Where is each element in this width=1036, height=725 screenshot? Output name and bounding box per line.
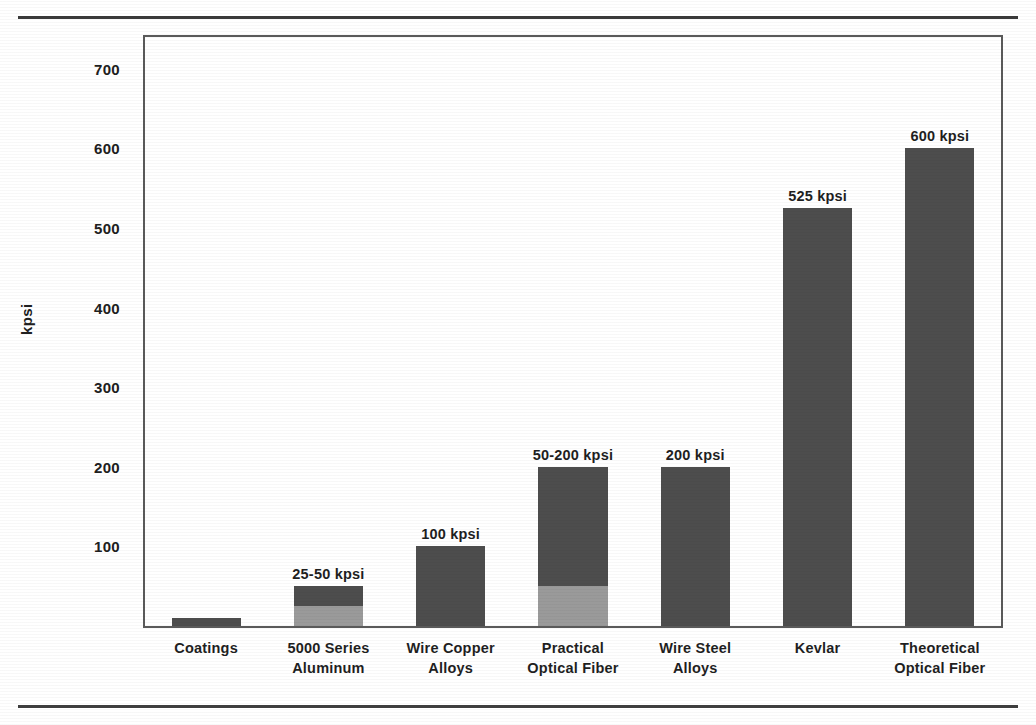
x-axis-label-line: Optical Fiber (512, 658, 634, 678)
x-axis-label-line: 5000 Series (267, 638, 389, 658)
top-horizontal-rule (18, 16, 1018, 19)
document-page: kpsi 700600500400300200100 25-50 kpsi100… (0, 0, 1036, 725)
bar[interactable] (172, 618, 241, 626)
bar[interactable] (783, 208, 852, 626)
x-axis-label-line: Alloys (390, 658, 512, 678)
x-axis-label-line: Kevlar (756, 638, 878, 658)
y-axis-tick-600: 600 (94, 140, 120, 157)
x-axis-label-line: Wire Steel (634, 638, 756, 658)
x-axis-label-kevlar: Kevlar (756, 638, 878, 658)
x-axis-label-line: Wire Copper (390, 638, 512, 658)
bar-value-label: 525 kpsi (788, 188, 847, 204)
y-axis-tick-300: 300 (94, 379, 120, 396)
bottom-horizontal-rule (18, 705, 1018, 708)
bar-lower-range-segment (294, 606, 363, 626)
x-axis-label-line: Practical (512, 638, 634, 658)
x-axis-label-line: Optical Fiber (879, 658, 1001, 678)
bar[interactable] (905, 148, 974, 626)
x-axis-label-5000-series-aluminum: 5000 SeriesAluminum (267, 638, 389, 678)
bar-value-label: 100 kpsi (421, 526, 480, 542)
x-axis-label-practical-optical-fiber: PracticalOptical Fiber (512, 638, 634, 678)
x-axis-label-coatings: Coatings (145, 638, 267, 658)
x-axis-label-wire-copper-alloys: Wire CopperAlloys (390, 638, 512, 678)
bar-group[interactable]: 25-50 kpsi (294, 586, 363, 626)
bar-value-label: 50-200 kpsi (533, 447, 613, 463)
x-axis-labels: Coatings5000 SeriesAluminumWire CopperAl… (145, 638, 1001, 694)
y-axis-tick-700: 700 (94, 60, 120, 77)
bar[interactable] (416, 546, 485, 626)
y-axis-tick-200: 200 (94, 458, 120, 475)
bar-group[interactable]: 200 kpsi (661, 467, 730, 626)
bar-value-label: 600 kpsi (910, 128, 969, 144)
bar-group[interactable]: 525 kpsi (783, 208, 852, 626)
bars-layer: 25-50 kpsi100 kpsi50-200 kpsi200 kpsi525… (145, 37, 1001, 626)
x-axis-label-line: Aluminum (267, 658, 389, 678)
bar[interactable] (661, 467, 730, 626)
bar-group[interactable]: 600 kpsi (905, 148, 974, 626)
clipped-header-text (150, 0, 910, 3)
bar-group[interactable] (172, 618, 241, 626)
y-axis: kpsi 700600500400300200100 (0, 35, 143, 628)
bar-value-label: 25-50 kpsi (292, 566, 364, 582)
x-axis-label-theoretical-optical-fiber: TheoreticalOptical Fiber (879, 638, 1001, 678)
x-axis-label-line: Coatings (145, 638, 267, 658)
y-axis-tick-100: 100 (94, 538, 120, 555)
x-axis-label-line: Theoretical (879, 638, 1001, 658)
y-axis-tick-500: 500 (94, 220, 120, 237)
y-axis-tick-400: 400 (94, 299, 120, 316)
x-axis-label-line: Alloys (634, 658, 756, 678)
bar-value-label: 200 kpsi (666, 447, 725, 463)
bar-lower-range-segment (538, 586, 607, 626)
y-axis-title: kpsi (18, 303, 35, 335)
x-axis-label-wire-steel-alloys: Wire SteelAlloys (634, 638, 756, 678)
bar-group[interactable]: 100 kpsi (416, 546, 485, 626)
bar-group[interactable]: 50-200 kpsi (538, 467, 607, 626)
